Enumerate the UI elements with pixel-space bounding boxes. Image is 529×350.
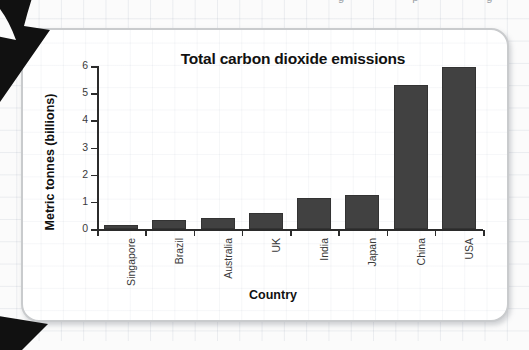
bar-australia — [201, 218, 235, 229]
x-axis-label-australia: Australia — [222, 238, 234, 279]
bar-japan — [345, 195, 379, 229]
bar-brazil — [152, 220, 186, 230]
y-axis-tick — [91, 175, 97, 177]
x-axis-label-usa: USA — [463, 238, 475, 260]
y-axis-tick-label: 0 — [71, 222, 88, 234]
x-axis-label-brazil: Brazil — [173, 238, 185, 264]
x-axis-tick — [387, 230, 389, 236]
plot-area: 0123456 SingaporeBrazilAustraliaUKIndiaJ… — [97, 66, 485, 266]
bar-uk — [249, 213, 283, 229]
x-axis-tick — [483, 230, 485, 236]
x-axis-tick — [338, 230, 340, 236]
x-axis-tick — [194, 230, 196, 236]
y-axis-tick — [91, 202, 97, 204]
y-axis-tick — [91, 93, 97, 95]
x-axis-tick — [242, 230, 244, 236]
x-axis-tick — [97, 230, 99, 236]
bar-china — [394, 85, 428, 229]
chart-title: Total carbon dioxide emissions — [143, 50, 443, 68]
y-axis-tick-label: 2 — [71, 168, 88, 180]
y-axis-tick-label: 3 — [71, 141, 88, 153]
y-axis-tick — [91, 148, 97, 150]
x-axis-label-china: China — [415, 238, 427, 265]
y-axis-tick-label: 4 — [71, 113, 88, 125]
x-axis-label-singapore: Singapore — [125, 238, 137, 286]
x-axis-label-india: India — [318, 238, 330, 261]
x-axis-tick — [290, 230, 292, 236]
bar-india — [297, 198, 331, 229]
bar-singapore — [104, 225, 138, 229]
bar-usa — [442, 67, 476, 229]
x-axis-title: Country — [123, 288, 423, 302]
x-axis-label-japan: Japan — [366, 238, 378, 267]
x-axis-label-uk: UK — [270, 238, 282, 253]
pointer-arrow-bottom-icon — [0, 310, 58, 350]
y-axis-line — [97, 66, 99, 230]
x-axis-tick — [145, 230, 147, 236]
pointer-arrow-top-icon — [0, 0, 90, 104]
y-axis-tick — [91, 120, 97, 122]
y-axis-tick — [91, 66, 97, 68]
x-axis-tick — [435, 230, 437, 236]
cropped-text-glyphs: g p g — [338, 0, 493, 3]
y-axis-tick-label: 1 — [71, 195, 88, 207]
chart-card: Total carbon dioxide emissions Metric to… — [21, 28, 509, 322]
